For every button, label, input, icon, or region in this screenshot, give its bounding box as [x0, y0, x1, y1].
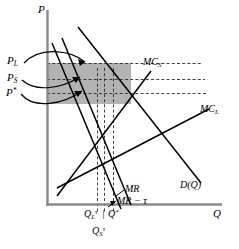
- q-s-superscript: τ: [103, 225, 105, 232]
- quantity-label-qs-tau: QSτ: [92, 226, 105, 238]
- quantity-label-q-star: Q*: [108, 209, 119, 219]
- price-label-pstar-base: P: [6, 86, 13, 98]
- curve-label-mc-long-run: MCL: [200, 104, 219, 115]
- quantity-label-ql-tau: QLτ: [84, 209, 97, 221]
- economics-diagram: P Q PL PS P* MCS MCL D(Q) MR MR − τ QLτ …: [0, 0, 239, 249]
- price-label-ps-base: P: [7, 71, 14, 83]
- curve-label-mc-short-run: MCS: [143, 57, 161, 68]
- curve-label-mr: MR: [125, 184, 139, 194]
- price-label-pl-subscript: L: [14, 59, 18, 68]
- mc-long-run-curve: [57, 109, 209, 188]
- mc-s-base: MC: [143, 56, 158, 67]
- price-label-pstar-superscript: *: [13, 86, 17, 95]
- price-label-pstar: P*: [6, 87, 16, 98]
- curve-label-mr-tau: MR − τ: [117, 196, 147, 206]
- mc-s-subscript: S: [158, 61, 161, 68]
- y-axis-label: P: [38, 4, 45, 15]
- curve-label-demand: D(Q): [180, 180, 201, 190]
- mc-l-base: MC: [200, 103, 215, 114]
- x-axis-label: Q: [213, 208, 221, 219]
- price-label-pl: PL: [7, 55, 18, 67]
- price-wedge-shading: [47, 63, 131, 104]
- demand-curve: [78, 27, 201, 183]
- price-label-ps-subscript: S: [14, 76, 18, 85]
- mc-l-subscript: L: [215, 108, 219, 115]
- q-l-superscript: τ: [95, 208, 97, 215]
- leader-arrow-pl: [24, 52, 85, 63]
- price-label-pl-base: P: [7, 54, 14, 66]
- q-star-superscript: *: [115, 208, 118, 215]
- price-label-ps: PS: [7, 72, 17, 84]
- quantity-label-divider: |: [102, 209, 105, 219]
- diagram-canvas: [0, 0, 239, 249]
